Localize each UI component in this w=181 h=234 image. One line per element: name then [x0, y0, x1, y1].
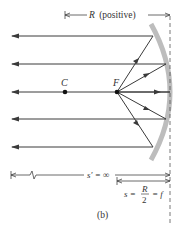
focal-label: F: [112, 77, 120, 88]
center-of-curvature-point: [63, 90, 68, 95]
center-label: C: [61, 77, 68, 88]
figure-caption: (b): [97, 210, 108, 221]
focal-point: [115, 90, 120, 95]
object-distance-suffix: = f: [152, 189, 164, 199]
radius-label: R (positive): [88, 10, 136, 21]
object-distance-prefix: s =: [124, 189, 136, 199]
fraction-denominator: 2: [142, 195, 147, 205]
concave-mirror-diagram: C F R (positive) s′ = ∞ s = R 2 = f (b): [0, 0, 181, 234]
fraction-numerator: R: [141, 184, 148, 194]
image-distance-label: s′ = ∞: [87, 170, 109, 180]
